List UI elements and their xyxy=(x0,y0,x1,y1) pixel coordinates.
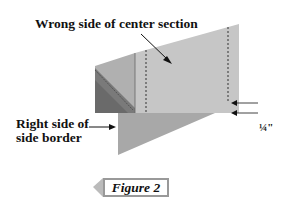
label-side-border-line2: side border xyxy=(16,131,89,145)
center-section xyxy=(135,24,239,113)
arrow-side-border xyxy=(109,124,116,130)
figure-tag-pointer xyxy=(93,178,103,197)
figure-tag: Figure 2 xyxy=(103,178,169,197)
side-border-triangle xyxy=(118,113,215,155)
label-side-border-line1: Right side of xyxy=(16,117,89,131)
label-side-border: Right side of side border xyxy=(16,117,89,145)
label-center-section: Wrong side of center section xyxy=(35,16,198,32)
label-seam-allowance: ¼" xyxy=(259,121,273,133)
